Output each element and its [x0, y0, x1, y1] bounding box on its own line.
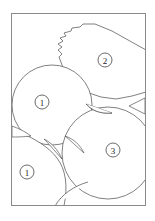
region-label-2: 2: [98, 53, 112, 67]
microstructure-diagram: 2 1 3 1: [0, 0, 155, 221]
region-label-3: 3: [106, 143, 120, 157]
label-text-1-upper: 1: [40, 98, 45, 108]
region-label-1-lower: 1: [20, 165, 34, 179]
figure-container: 2 1 3 1: [0, 0, 155, 221]
region-label-1-upper: 1: [35, 95, 49, 109]
label-text-1-lower: 1: [25, 168, 30, 178]
label-text-2: 2: [103, 56, 108, 66]
label-text-3: 3: [111, 146, 116, 156]
